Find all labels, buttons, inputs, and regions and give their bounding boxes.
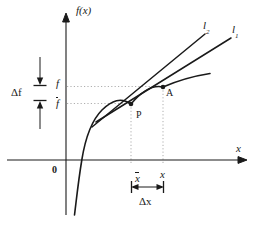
secant-line-l2 bbox=[92, 34, 205, 127]
x-bar-axis-label: x bbox=[135, 172, 140, 184]
line-l2-label: l2 bbox=[203, 20, 210, 34]
point-P-label: P bbox=[136, 110, 142, 120]
derivative-diagram-figure: f(x) x 0 f f x x Δf Δx P A l2 l1 bbox=[0, 0, 262, 227]
point-markers bbox=[129, 85, 166, 107]
secant-line-l2-group bbox=[92, 34, 205, 127]
origin-label: 0 bbox=[52, 165, 57, 175]
line-l1-label-subscript: 1 bbox=[235, 32, 239, 40]
delta-x-label: Δx bbox=[139, 196, 152, 207]
function-curve bbox=[75, 74, 211, 216]
line-l2-label-subscript: 2 bbox=[206, 28, 210, 36]
tangent-line-l1-group bbox=[96, 38, 231, 122]
y-axis-arrowhead bbox=[63, 13, 70, 22]
y-axis-label: f(x) bbox=[76, 5, 91, 16]
diagram-canvas bbox=[0, 0, 262, 227]
f-bar-value-label: f bbox=[56, 97, 59, 109]
point-P-marker bbox=[129, 102, 134, 107]
function-curve-group bbox=[75, 74, 211, 216]
x-axis-tick-label: x bbox=[160, 169, 165, 180]
delta-f-label: Δf bbox=[11, 87, 22, 98]
delta-f-measure bbox=[34, 57, 47, 129]
x-axis-arrowhead bbox=[238, 157, 247, 164]
line-l1-label: l1 bbox=[232, 24, 239, 38]
guide-lines bbox=[67, 87, 163, 166]
delta-f-upper-arrowhead bbox=[37, 78, 43, 86]
x-axis-label: x bbox=[236, 143, 241, 154]
axes-group bbox=[7, 13, 247, 215]
point-A-label: A bbox=[166, 88, 173, 98]
tangent-line-l1 bbox=[96, 38, 231, 122]
point-A-marker bbox=[161, 85, 166, 90]
f-value-label: f bbox=[56, 78, 59, 89]
